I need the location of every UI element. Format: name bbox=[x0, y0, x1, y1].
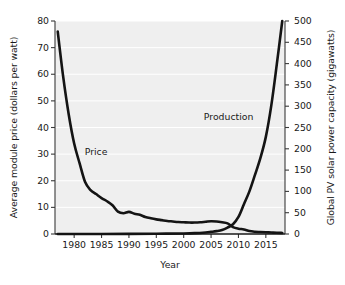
right-tick-label: 400 bbox=[294, 58, 334, 69]
x-tick-label: 2015 bbox=[246, 239, 286, 250]
left-tick-label: 0 bbox=[9, 228, 49, 239]
right-tick-label: 500 bbox=[294, 15, 334, 26]
right-tick-label: 450 bbox=[294, 36, 334, 47]
right-tick-label: 300 bbox=[294, 100, 334, 111]
left-axis-ticks bbox=[51, 21, 55, 234]
right-axis-ticks bbox=[285, 21, 289, 234]
right-tick-label: 0 bbox=[294, 228, 334, 239]
left-tick-label: 10 bbox=[9, 201, 49, 212]
x-axis-title: Year bbox=[55, 259, 285, 270]
solar-price-production-chart: Average module price (dollars per watt) … bbox=[0, 0, 345, 285]
left-tick-label: 20 bbox=[9, 175, 49, 186]
left-tick-label: 80 bbox=[9, 15, 49, 26]
left-tick-label: 50 bbox=[9, 95, 49, 106]
right-tick-label: 100 bbox=[294, 185, 334, 196]
annotation-production: Production bbox=[204, 110, 253, 121]
left-tick-label: 70 bbox=[9, 42, 49, 53]
plot-area-group bbox=[51, 21, 289, 238]
left-tick-label: 30 bbox=[9, 148, 49, 159]
right-tick-label: 150 bbox=[294, 164, 334, 175]
right-tick-label: 350 bbox=[294, 79, 334, 90]
right-tick-label: 50 bbox=[294, 207, 334, 218]
left-tick-label: 40 bbox=[9, 122, 49, 133]
annotation-price: Price bbox=[85, 146, 108, 157]
left-tick-label: 60 bbox=[9, 68, 49, 79]
right-tick-label: 250 bbox=[294, 122, 334, 133]
right-tick-label: 200 bbox=[294, 143, 334, 154]
